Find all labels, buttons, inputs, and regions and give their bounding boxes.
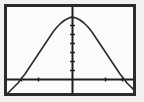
graphing-calculator-screen[interactable]: Graphing Calculator Plot <box>0 0 144 102</box>
plot-svg <box>0 0 144 102</box>
plot-area-background <box>6 6 135 95</box>
screenshot-root: Graphing Calculator Plot <box>0 0 144 102</box>
